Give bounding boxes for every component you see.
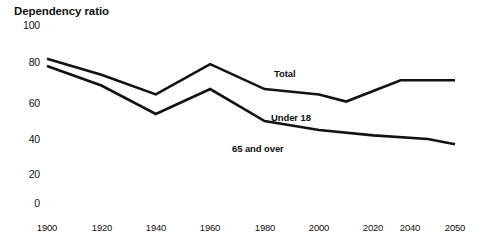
plot-area: [0, 0, 480, 244]
series-label-under-18: Under 18: [271, 112, 311, 123]
chart-container: Dependency ratio 100 80 60 40 20 0 1900 …: [0, 0, 480, 244]
line-total: [47, 59, 455, 102]
series-label-total: Total: [274, 68, 296, 79]
series-label-65-and-over: 65 and over: [232, 143, 284, 154]
